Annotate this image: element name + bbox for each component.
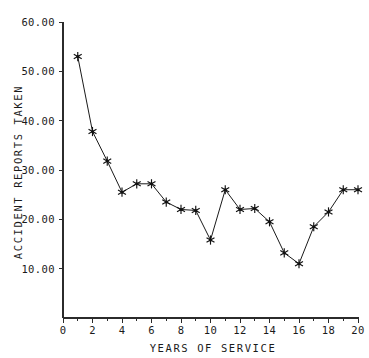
x-tick-label: 10 [204, 324, 217, 336]
y-axis-title: ACCIDENT REPORTS TAKEN [12, 85, 24, 259]
x-tick-label: 16 [292, 324, 305, 336]
data-point-marker [266, 217, 274, 226]
x-tick-label: 14 [263, 324, 276, 336]
line-chart: 10.0020.0030.0040.0050.0060.00 024681012… [0, 0, 369, 358]
cut-off-caption [0, 349, 369, 358]
series-line-path [78, 57, 358, 264]
data-point-marker [103, 157, 111, 166]
data-series [74, 52, 362, 268]
data-point-marker [89, 127, 97, 136]
x-tick-label: 0 [60, 324, 67, 336]
y-axis: 10.0020.0030.0040.0050.0060.00 [21, 16, 63, 318]
y-tick-label: 30.00 [21, 164, 55, 176]
y-tick-label: 40.00 [21, 115, 55, 127]
y-axis-ticks: 10.0020.0030.0040.0050.0060.00 [21, 16, 63, 275]
y-tick-label: 10.00 [21, 263, 55, 275]
data-point-marker [74, 52, 82, 61]
x-tick-label: 4 [119, 324, 126, 336]
chart-container: 10.0020.0030.0040.0050.0060.00 024681012… [0, 0, 369, 358]
x-tick-label: 6 [148, 324, 155, 336]
y-tick-label: 60.00 [21, 16, 55, 28]
x-tick-label: 20 [351, 324, 364, 336]
x-tick-label: 12 [233, 324, 246, 336]
x-axis: 02468101214161820 [60, 318, 365, 336]
y-tick-label: 50.00 [21, 65, 55, 77]
data-point-marker [295, 259, 303, 268]
y-tick-label: 20.00 [21, 213, 55, 225]
data-point-marker [207, 235, 215, 244]
x-tick-label: 2 [89, 324, 96, 336]
x-tick-label: 8 [178, 324, 185, 336]
x-axis-ticks: 02468101214161820 [60, 318, 365, 336]
x-tick-label: 18 [322, 324, 335, 336]
data-point-marker [118, 188, 126, 197]
data-point-markers [74, 52, 362, 268]
data-point-marker [280, 248, 288, 257]
